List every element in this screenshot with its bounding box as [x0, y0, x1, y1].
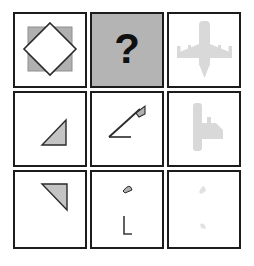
question-mark-label: ?	[92, 14, 162, 86]
puzzle-cell-row1-col3[interactable]	[167, 12, 241, 88]
puzzle-cell-row2-col3[interactable]	[167, 91, 241, 167]
right-triangle-down-shape	[15, 172, 85, 247]
wedge-and-l-line-shape	[92, 172, 162, 247]
puzzle-cell-row2-col2[interactable]	[90, 91, 164, 167]
puzzle-cell-row1-col2-missing[interactable]: ?	[90, 12, 164, 88]
puzzle-cell-row1-col1[interactable]	[13, 12, 87, 88]
airplane-fragment-rotated-shape	[169, 93, 239, 165]
faint-fragments-shape	[169, 172, 239, 247]
puzzle-grid: ?	[13, 12, 241, 247]
right-triangle-up-shape	[15, 93, 85, 165]
matrix-reasoning-puzzle: ?	[0, 0, 254, 266]
diagonal-line-with-flag-shape	[92, 93, 162, 165]
diamond-in-square-shape	[15, 14, 85, 86]
puzzle-cell-row3-col2[interactable]	[90, 170, 164, 249]
puzzle-cell-row3-col1[interactable]	[13, 170, 87, 249]
airplane-silhouette-shape	[169, 14, 239, 86]
puzzle-cell-row3-col3[interactable]	[167, 170, 241, 249]
puzzle-cell-row2-col1[interactable]	[13, 91, 87, 167]
